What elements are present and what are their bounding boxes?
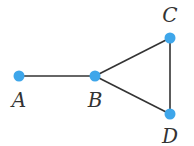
node-c — [165, 33, 176, 44]
node-a — [14, 71, 25, 82]
edge-b-d — [95, 76, 170, 114]
node-label-a: A — [10, 88, 26, 112]
edge-b-c — [95, 38, 170, 76]
node-d — [165, 109, 176, 120]
node-label-b: B — [87, 88, 103, 112]
node-b — [90, 71, 101, 82]
graph-diagram: ABCD — [0, 0, 194, 146]
node-label-d: D — [161, 124, 178, 146]
node-label-c: C — [162, 3, 177, 27]
